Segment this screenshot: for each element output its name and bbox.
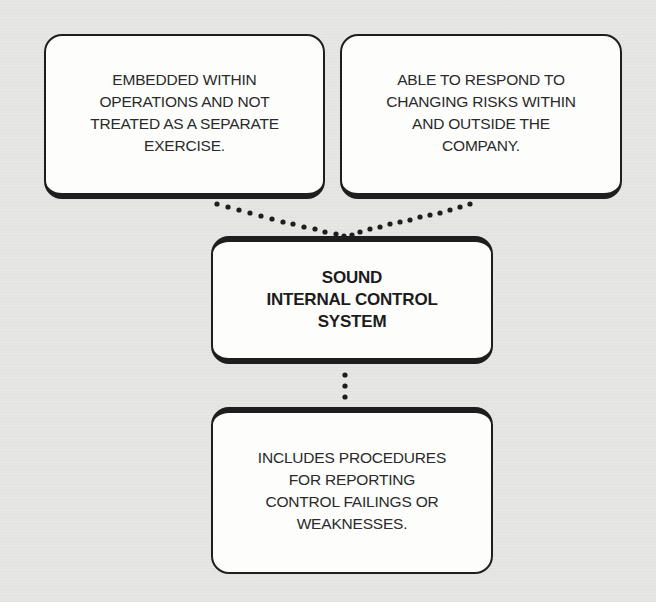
- connector-center-to-bottom: [342, 372, 347, 399]
- bottom-box-text: INCLUDES PROCEDURES FOR REPORTING CONTRO…: [258, 447, 446, 539]
- top-right-box-text: ABLE TO RESPOND TO CHANGING RISKS WITHIN…: [386, 69, 576, 161]
- center-box: SOUND INTERNAL CONTROL SYSTEM: [211, 236, 493, 364]
- connector-right-to-center: [349, 201, 472, 237]
- bottom-box: INCLUDES PROCEDURES FOR REPORTING CONTRO…: [211, 407, 493, 574]
- top-left-box: EMBEDDED WITHIN OPERATIONS AND NOT TREAT…: [44, 34, 325, 199]
- top-left-box-text: EMBEDDED WITHIN OPERATIONS AND NOT TREAT…: [90, 69, 279, 161]
- center-box-title: SOUND INTERNAL CONTROL SYSTEM: [266, 267, 437, 333]
- connector-left-to-center: [214, 201, 346, 238]
- top-right-box: ABLE TO RESPOND TO CHANGING RISKS WITHIN…: [340, 34, 622, 199]
